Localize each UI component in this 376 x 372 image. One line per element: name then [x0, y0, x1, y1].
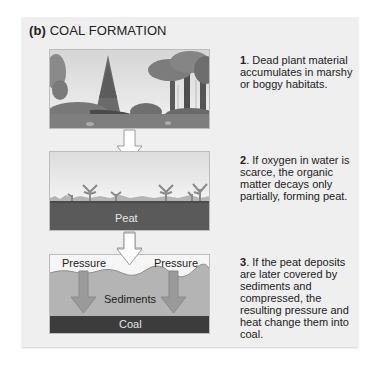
step-2-description: 2. If oxygen in water is scarce, the org… [240, 154, 356, 202]
step-3-text: . If the peat deposits are later covered… [240, 256, 349, 340]
figure-title: (b) COAL FORMATION [29, 23, 167, 38]
step-1-description: 1. Dead plant material accumulates in ma… [240, 54, 356, 90]
down-arrow-2-overlay [116, 232, 144, 268]
coal-label: Coal [119, 318, 142, 330]
sediments-label: Sediments [104, 293, 156, 305]
step-1-text: . Dead plant material accumulates in mar… [240, 54, 353, 90]
step-2-text: . If oxygen in water is scarce, the orga… [240, 154, 349, 202]
step-1-forest-image [49, 49, 210, 129]
figure-title-text: COAL FORMATION [50, 23, 167, 38]
figure-title-prefix: (b) [29, 23, 46, 38]
step-3-description: 3. If the peat deposits are later covere… [240, 256, 356, 340]
peat-label: Peat [115, 212, 138, 224]
pressure-label-left: Pressure [62, 257, 106, 269]
pressure-label-right: Pressure [154, 257, 198, 269]
